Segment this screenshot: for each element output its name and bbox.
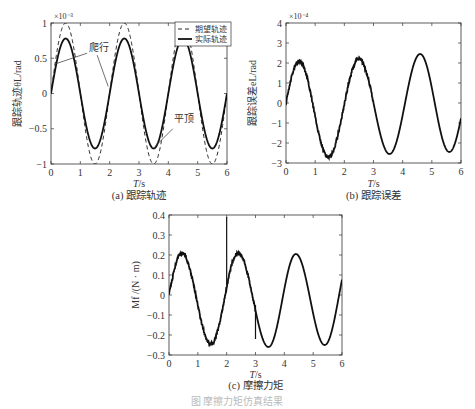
y-tick-label: 3 (277, 38, 282, 49)
y-tick-label: −2 (271, 138, 282, 149)
y-axis-label: Mf /(N · m) (130, 261, 142, 309)
y-axis-label: 跟踪误差eL/rad (246, 60, 258, 126)
chart-panel-b: 012345643210−1−2−3×10⁻⁴T/s跟踪误差eL/rad(b) … (246, 12, 464, 202)
y-tick-label: 1 (42, 18, 47, 29)
x-tick-label: 4 (282, 358, 287, 369)
x-axis-label: T/s (367, 178, 379, 189)
legend-entry: 实际轨迹 (195, 34, 227, 44)
x-tick-label: 2 (107, 167, 112, 178)
figure-caption: 图 摩擦力矩仿真结果 (191, 395, 284, 407)
x-tick-label: 5 (429, 166, 434, 177)
x-tick-label: 0 (167, 358, 172, 369)
y-tick-label: 4 (277, 18, 282, 29)
y-multiplier: ×10⁻⁴ (289, 12, 309, 21)
y-tick-label: 0.1 (153, 270, 166, 281)
axes-frame (286, 23, 461, 163)
annotation: 爬行 (89, 41, 109, 53)
y-tick-label: 0 (42, 88, 47, 99)
y-tick-label: −0.2 (147, 330, 165, 341)
panel-caption: (b) 跟踪误差 (346, 189, 401, 202)
y-tick-label: 1 (277, 78, 282, 89)
y-tick-label: 2 (277, 58, 282, 69)
x-tick-label: 2 (342, 166, 347, 177)
y-axis-label: 跟踪轨迹θL/rad (11, 60, 23, 126)
y-tick-label: 0.3 (153, 230, 166, 241)
x-axis-label: T/s (133, 178, 145, 189)
y-tick-label: 0 (277, 98, 282, 109)
x-tick-label: 6 (340, 358, 345, 369)
chart-panel-c: 01234560.40.30.20.10−0.1−0.2−0.3T/sMf /(… (130, 210, 345, 393)
figure: 012345610.50−0.5−1×10⁻³T/s跟踪轨迹θL/rad(a) … (0, 0, 475, 409)
legend: 期望轨迹实际轨迹 (175, 22, 231, 46)
x-tick-label: 6 (225, 167, 230, 178)
legend-entry: 期望轨迹 (195, 24, 227, 34)
y-tick-label: −0.5 (29, 123, 47, 134)
y-tick-label: 0.5 (35, 53, 48, 64)
x-tick-label: 6 (459, 166, 464, 177)
y-tick-label: 0 (160, 290, 165, 301)
y-multiplier: ×10⁻³ (54, 12, 74, 21)
y-tick-label: 0.2 (153, 250, 166, 261)
series-line (51, 39, 227, 149)
x-tick-label: 0 (284, 166, 289, 177)
panel-caption: (c) 摩擦力矩 (228, 379, 282, 392)
x-axis-label: T/s (249, 369, 261, 380)
y-tick-label: −0.1 (147, 310, 165, 321)
x-tick-label: 3 (137, 167, 142, 178)
series-line (286, 54, 461, 158)
y-tick-label: 0.4 (153, 210, 166, 221)
y-tick-label: −1 (36, 159, 47, 170)
x-tick-label: 1 (313, 166, 318, 177)
y-tick-label: −1 (271, 118, 282, 129)
panel-caption: (a) 跟踪轨迹 (112, 189, 167, 202)
x-tick-label: 1 (195, 358, 200, 369)
chart-panel-a: 012345610.50−0.5−1×10⁻³T/s跟踪轨迹θL/rad(a) … (11, 12, 231, 202)
x-tick-label: 0 (49, 167, 54, 178)
x-tick-label: 4 (166, 167, 171, 178)
annotation: 平顶 (174, 113, 194, 124)
x-tick-label: 5 (195, 167, 200, 178)
y-tick-label: −0.3 (147, 350, 165, 361)
x-tick-label: 2 (224, 358, 229, 369)
y-tick-label: −3 (271, 158, 282, 169)
x-tick-label: 4 (400, 166, 405, 177)
x-tick-label: 1 (78, 167, 83, 178)
x-tick-label: 3 (371, 166, 376, 177)
x-tick-label: 5 (311, 358, 316, 369)
x-tick-label: 3 (253, 358, 258, 369)
